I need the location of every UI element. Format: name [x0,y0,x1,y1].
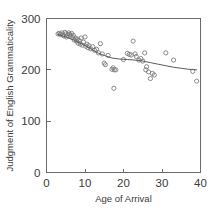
x-tick-label: 40 [194,177,207,189]
data-point [133,52,137,56]
data-point [164,51,168,55]
y-axis-tick-labels: 0100200300 [21,13,40,179]
y-tick-label: 300 [21,13,40,25]
x-axis-title: Age of Arrival [95,193,152,204]
x-axis-tick-labels: 010203040 [43,177,207,189]
x-tick-label: 0 [43,177,49,189]
data-point [98,42,102,46]
data-point [195,79,199,83]
data-point [83,35,87,39]
x-axis-ticks [47,169,201,173]
y-tick-label: 200 [21,64,40,76]
plot-frame [47,19,201,173]
x-tick-label: 20 [117,177,130,189]
y-axis-title: Judgment of English Grammaticality [4,19,15,171]
data-point-group [56,30,199,90]
chart-canvas: 010203040 0100200300 Age of Arrival Judg… [0,0,217,210]
x-tick-label: 30 [156,177,169,189]
data-point [143,51,147,55]
x-tick-label: 10 [79,177,92,189]
data-point [148,76,152,80]
plot-frame-border [47,19,201,173]
scatter-plot-figure: 010203040 0100200300 Age of Arrival Judg… [0,0,217,210]
y-tick-label: 0 [34,167,40,179]
data-point [171,58,175,62]
data-point [131,39,135,43]
y-axis-ticks [47,19,51,173]
data-point [112,86,116,90]
y-tick-label: 100 [21,115,40,127]
